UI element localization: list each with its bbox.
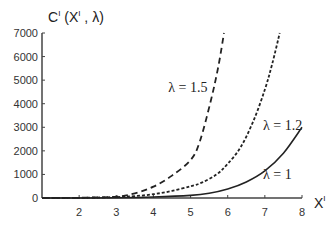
series-annotation: λ = 1.2 [263, 118, 302, 133]
y-tick-label: 3000 [14, 121, 38, 133]
y-tick-label: 0 [32, 192, 38, 204]
y-tick-label: 4000 [14, 98, 38, 110]
x-tick-label: 4 [150, 206, 156, 218]
series-annotation: λ = 1.5 [168, 80, 207, 95]
x-tick-label: 3 [113, 206, 119, 218]
x-tick-label: 7 [262, 206, 268, 218]
series-annotation: λ = 1 [263, 167, 292, 182]
y-tick-label: 7000 [14, 27, 38, 39]
x-tick-label: 6 [225, 206, 231, 218]
x-axis-title: XI [314, 194, 326, 211]
chart: CI (XI , λ) XI 0100020003000400050006000… [0, 0, 336, 226]
x-tick-label: 2 [76, 206, 82, 218]
x-tick-label: 5 [188, 206, 194, 218]
x-tick-label: 8 [299, 206, 305, 218]
y-tick-label: 1000 [14, 168, 38, 180]
series-line-3 [42, 33, 224, 198]
series-line-1 [42, 127, 302, 198]
y-tick-label: 6000 [14, 51, 38, 63]
y-axis-title: CI (XI , λ) [48, 9, 104, 25]
y-tick-label: 2000 [14, 145, 38, 157]
y-tick-label: 5000 [14, 74, 38, 86]
series-line-2 [42, 33, 280, 198]
